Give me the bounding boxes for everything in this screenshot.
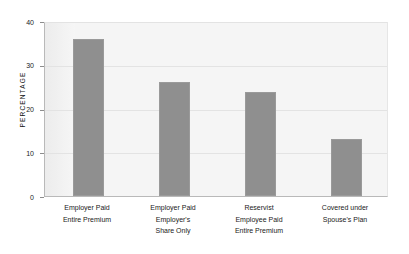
y-axis-title-container: PERCENTAGE xyxy=(0,0,34,200)
x-category-label-line: Employer Paid xyxy=(130,202,216,214)
x-category-label-line: Employer's xyxy=(130,214,216,226)
bar[interactable] xyxy=(331,139,362,196)
x-category-label-line: Entire Premium xyxy=(216,225,302,237)
bar-chart-figure: PERCENTAGE 010203040 Employer PaidEntire… xyxy=(0,0,409,254)
x-category-label-line: Reservist xyxy=(216,202,302,214)
y-tick-mark xyxy=(40,197,44,198)
bar[interactable] xyxy=(73,39,104,196)
y-tick-label: 30 xyxy=(8,62,34,69)
y-axis-title: PERCENTAGE xyxy=(19,30,26,170)
x-category-label-line: Employee Paid xyxy=(216,214,302,226)
x-category-label-line: Employer Paid xyxy=(44,202,130,214)
gridline xyxy=(45,22,387,23)
x-category-label-line: Covered under xyxy=(302,202,388,214)
plot-area xyxy=(44,22,388,197)
x-category-label-line: Spouse's Plan xyxy=(302,214,388,226)
x-category-label: Covered underSpouse's Plan xyxy=(302,202,388,225)
bar[interactable] xyxy=(245,92,276,196)
y-tick-label: 10 xyxy=(8,150,34,157)
y-tick-label: 0 xyxy=(8,194,34,201)
x-category-label-line: Share Only xyxy=(130,225,216,237)
x-category-label: Employer PaidEmployer'sShare Only xyxy=(130,202,216,237)
x-category-label: ReservistEmployee PaidEntire Premium xyxy=(216,202,302,237)
bar[interactable] xyxy=(159,82,190,196)
x-category-label: Employer PaidEntire Premium xyxy=(44,202,130,225)
x-category-label-line: Entire Premium xyxy=(44,214,130,226)
y-tick-label: 40 xyxy=(8,19,34,26)
y-tick-label: 20 xyxy=(8,106,34,113)
